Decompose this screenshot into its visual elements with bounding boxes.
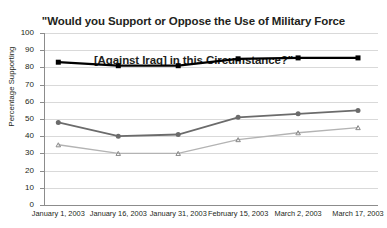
y-axis-label: 70: [0, 80, 34, 89]
y-axis-label: 40: [0, 131, 34, 140]
chart-container: "Would you Support or Oppose the Use of …: [0, 0, 387, 228]
data-point-circle: [116, 134, 121, 139]
series-line: [58, 110, 358, 136]
data-point-square: [56, 60, 61, 65]
data-series-layer: [45, 33, 378, 205]
data-point-circle: [296, 111, 301, 116]
y-axis-label: 90: [0, 45, 34, 54]
chart-title-line-1: "Would you Support or Oppose the Use of …: [0, 15, 387, 28]
series-series-1-top: [56, 55, 361, 68]
y-axis-label: 0: [0, 200, 34, 209]
y-axis-label: 100: [0, 28, 34, 37]
data-point-circle: [56, 120, 61, 125]
data-point-square: [116, 63, 121, 68]
y-axis-label: 50: [0, 114, 34, 123]
data-point-square: [296, 55, 301, 60]
y-axis-label: 80: [0, 62, 34, 71]
series-line: [58, 128, 358, 154]
gridline-0: [45, 205, 378, 206]
y-axis-label: 30: [0, 148, 34, 157]
data-point-square: [176, 63, 181, 68]
series-series-2-middle: [56, 108, 361, 139]
y-axis-label: 10: [0, 183, 34, 192]
data-point-circle: [356, 108, 361, 113]
y-axis-label: 60: [0, 97, 34, 106]
y-axis-label: 20: [0, 166, 34, 175]
x-axis-label: March 17, 2003: [323, 209, 387, 218]
plot-area: [45, 33, 378, 205]
data-point-triangle: [356, 126, 361, 130]
series-line: [58, 58, 358, 66]
data-point-circle: [176, 132, 181, 137]
data-point-circle: [236, 115, 241, 120]
data-point-square: [236, 56, 241, 61]
data-point-square: [356, 55, 361, 60]
series-series-3-bottom: [56, 126, 360, 156]
